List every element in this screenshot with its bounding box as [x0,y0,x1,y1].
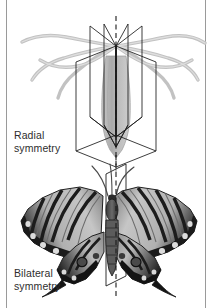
symmetry-figure-panel: Radial symmetry Bilateral symmetry [0,0,218,308]
butterfly-tail-right [152,280,176,297]
bilateral-symmetry-caption: Bilateral symmetry [14,267,60,292]
symmetry-illustration [0,0,218,308]
radial-symmetry-caption: Radial symmetry [14,129,60,154]
